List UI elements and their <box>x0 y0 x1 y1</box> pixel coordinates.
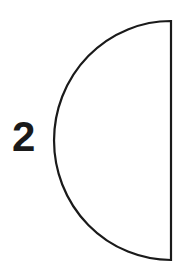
semicircle-diagram: 2 <box>0 0 186 276</box>
figure-number-label: 2 <box>12 116 35 158</box>
